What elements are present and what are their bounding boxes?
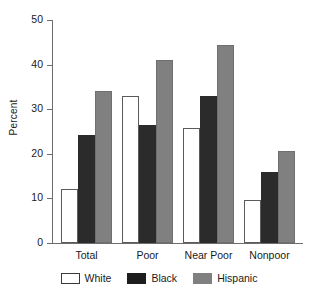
bar-near-poor-white: [183, 128, 200, 243]
legend-label: Black: [151, 272, 177, 284]
y-tick-10: 10: [47, 198, 52, 199]
legend-item-black[interactable]: Black: [127, 272, 177, 284]
y-tick-label: 50: [31, 13, 43, 25]
legend-item-hispanic[interactable]: Hispanic: [193, 272, 257, 284]
y-tick-0: 0: [47, 243, 52, 244]
y-tick-label: 20: [31, 147, 43, 159]
bar-nonpoor-hispanic: [278, 151, 295, 243]
y-tick-40: 40: [47, 65, 52, 66]
x-axis-line: [52, 243, 303, 244]
x-label-poor: Poor: [136, 249, 158, 261]
bar-near-poor-black: [200, 96, 217, 243]
y-tick-label: 0: [37, 236, 43, 248]
plot-area: 01020304050 TotalPoorNear PoorNonpoor: [52, 20, 302, 243]
bar-poor-white: [122, 96, 139, 243]
y-tick-label: 10: [31, 191, 43, 203]
bar-total-black: [78, 135, 95, 243]
bar-poor-hispanic: [156, 60, 173, 243]
legend-swatch-hispanic-icon: [193, 273, 212, 284]
legend-item-white[interactable]: White: [61, 272, 112, 284]
bar-poor-black: [139, 125, 156, 243]
bar-nonpoor-black: [261, 172, 278, 243]
y-tick-30: 30: [47, 109, 52, 110]
bar-near-poor-hispanic: [217, 45, 234, 243]
bar-chart: Percent 01020304050 TotalPoorNear PoorNo…: [0, 0, 318, 299]
legend-label: White: [85, 272, 112, 284]
legend-label: Hispanic: [217, 272, 257, 284]
legend-swatch-white-icon: [61, 273, 80, 284]
x-label-nonpoor: Nonpoor: [249, 249, 289, 261]
y-axis-title: Percent: [8, 83, 19, 153]
bar-total-hispanic: [95, 91, 112, 243]
y-tick-20: 20: [47, 154, 52, 155]
bar-total-white: [61, 189, 78, 243]
y-tick-label: 40: [31, 58, 43, 70]
chart-legend: WhiteBlackHispanic: [0, 272, 318, 284]
y-tick-50: 50: [47, 20, 52, 21]
y-axis-line: [52, 20, 53, 244]
y-tick-label: 30: [31, 102, 43, 114]
legend-swatch-black-icon: [127, 273, 146, 284]
bar-nonpoor-white: [244, 200, 261, 243]
x-label-total: Total: [75, 249, 97, 261]
x-label-near-poor: Near Poor: [185, 249, 233, 261]
